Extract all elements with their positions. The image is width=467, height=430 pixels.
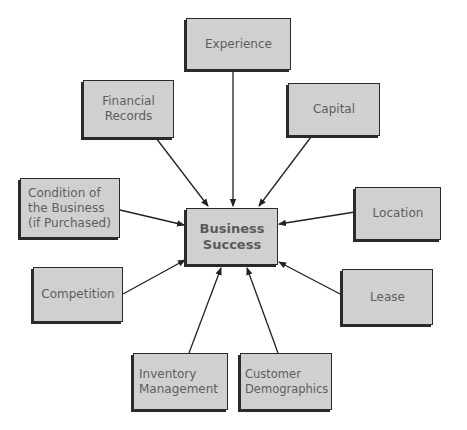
node-competition: Competition bbox=[33, 267, 123, 322]
node-label: Competition bbox=[41, 287, 114, 302]
node-inventory-management: Inventory Management bbox=[133, 353, 228, 410]
node-financial-records: Financial Records bbox=[83, 80, 174, 138]
node-label: Financial Records bbox=[102, 94, 155, 124]
node-label: Customer Demographics bbox=[245, 367, 328, 397]
node-condition-of-business: Condition of the Business (if Purchased) bbox=[20, 178, 120, 238]
arrow-customer bbox=[247, 268, 278, 353]
arrow-competition bbox=[123, 260, 185, 294]
node-capital: Capital bbox=[288, 83, 380, 136]
diagram-canvas: Experience Financial Records Capital Con… bbox=[0, 0, 467, 430]
node-label: Condition of the Business (if Purchased) bbox=[28, 186, 111, 231]
arrow-inventory bbox=[189, 268, 221, 353]
center-label: Business Success bbox=[200, 221, 265, 253]
arrow-lease bbox=[279, 262, 342, 295]
node-label: Location bbox=[373, 206, 424, 221]
arrow-location bbox=[279, 212, 355, 224]
node-experience: Experience bbox=[186, 18, 291, 70]
node-location: Location bbox=[355, 187, 441, 240]
node-label: Capital bbox=[313, 102, 355, 117]
node-label: Experience bbox=[205, 37, 272, 52]
node-label: Lease bbox=[370, 290, 405, 305]
arrow-financial-records bbox=[156, 138, 208, 206]
node-customer-demographics: Customer Demographics bbox=[240, 353, 332, 410]
node-label: Inventory Management bbox=[139, 367, 218, 397]
arrow-capital bbox=[259, 137, 311, 206]
arrow-condition bbox=[120, 210, 184, 225]
node-business-success: Business Success bbox=[186, 208, 278, 265]
node-lease: Lease bbox=[342, 269, 433, 325]
